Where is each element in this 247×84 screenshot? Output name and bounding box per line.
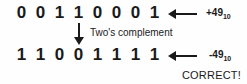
bit: 1 bbox=[145, 45, 164, 65]
arrow-head bbox=[74, 37, 84, 45]
bit: 0 bbox=[107, 3, 126, 23]
top-binary-row: 0 0 1 1 0 0 0 1 bbox=[12, 3, 164, 23]
arrow-shaft bbox=[173, 55, 197, 57]
bit: 0 bbox=[31, 3, 50, 23]
operation-caption: Two's complement bbox=[90, 27, 173, 38]
bit: 1 bbox=[88, 45, 107, 65]
bit: 1 bbox=[31, 45, 50, 65]
bit: 0 bbox=[69, 45, 88, 65]
down-arrow-icon bbox=[74, 23, 84, 45]
bit: 1 bbox=[69, 3, 88, 23]
top-decimal-value: +49 bbox=[206, 7, 223, 18]
bit: 1 bbox=[145, 3, 164, 23]
bottom-decimal-value: -49 bbox=[209, 49, 223, 60]
left-arrow-icon bbox=[168, 9, 198, 19]
bit: 0 bbox=[126, 3, 145, 23]
bottom-decimal-label: -4910 bbox=[209, 49, 231, 62]
bit: 0 bbox=[50, 45, 69, 65]
bit: 1 bbox=[12, 45, 31, 65]
verdict-label: CORRECT! bbox=[182, 69, 241, 81]
bit: 1 bbox=[50, 3, 69, 23]
top-decimal-label: +4910 bbox=[206, 7, 231, 20]
bit: 1 bbox=[107, 45, 126, 65]
bit: 0 bbox=[88, 3, 107, 23]
bit: 0 bbox=[12, 3, 31, 23]
left-arrow-icon bbox=[168, 51, 198, 61]
bottom-binary-row: 1 1 0 0 1 1 1 1 bbox=[12, 45, 164, 65]
bit: 1 bbox=[126, 45, 145, 65]
twos-complement-diagram: 0 0 1 1 0 0 0 1 +4910 Two's complement 1… bbox=[0, 0, 247, 84]
arrow-shaft bbox=[173, 13, 197, 15]
bottom-decimal-base: 10 bbox=[223, 55, 231, 62]
top-decimal-base: 10 bbox=[223, 13, 231, 20]
